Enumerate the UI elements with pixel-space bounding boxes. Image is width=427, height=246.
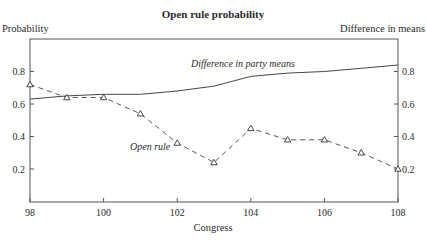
series-label-difference: Difference in party means	[190, 58, 295, 69]
x-tick-label: 102	[170, 207, 185, 218]
y-right-tick-label: 0.8	[402, 66, 415, 77]
y-right-tick-label: 0.6	[402, 99, 415, 110]
y-axis-right: 0.20.40.60.8	[394, 66, 415, 175]
x-axis-title: Congress	[193, 222, 232, 233]
chart-title: Open rule probability	[162, 8, 265, 20]
y-axis-left-title: Probability	[2, 23, 49, 34]
x-tick-label: 106	[317, 207, 332, 218]
y-right-tick-label: 0.2	[402, 164, 415, 175]
x-tick-label: 104	[243, 207, 258, 218]
y-right-tick-label: 0.4	[402, 131, 415, 142]
y-left-tick-label: 0.2	[13, 164, 26, 175]
series-line-open-rule	[30, 85, 398, 170]
data-point-open-rule	[137, 111, 143, 116]
data-point-open-rule	[174, 140, 180, 145]
y-left-tick-label: 0.4	[13, 131, 26, 142]
data-point-open-rule	[100, 94, 106, 99]
data-point-open-rule	[321, 137, 327, 142]
x-tick-label: 100	[96, 207, 111, 218]
series-layer	[27, 65, 401, 171]
chart: Open rule probability Probability Differ…	[0, 0, 427, 246]
y-left-tick-label: 0.6	[13, 99, 26, 110]
series-label-open-rule: Open rule	[130, 141, 171, 152]
y-axis-right-title: Difference in means	[340, 23, 425, 34]
series-line-difference-in-party-means	[30, 65, 398, 99]
data-point-open-rule	[27, 81, 33, 86]
data-point-open-rule	[248, 125, 254, 130]
x-tick-label: 108	[391, 207, 406, 218]
y-left-tick-label: 0.8	[13, 66, 26, 77]
x-tick-label: 98	[25, 207, 35, 218]
data-point-open-rule	[358, 150, 364, 155]
x-axis: 98100102104106108	[25, 198, 406, 218]
